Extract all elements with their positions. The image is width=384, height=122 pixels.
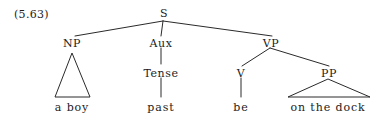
leaf-on-the-dock: on the dock xyxy=(290,101,365,114)
leaf-a-boy: a boy xyxy=(55,101,89,114)
branch-vp-pp xyxy=(270,48,329,66)
branch-s-aux xyxy=(161,21,163,36)
node-aux: Aux xyxy=(148,37,172,50)
leaf-past: past xyxy=(147,101,174,114)
syntax-tree-figure: (5.63) S NP Aux VP Tense V PP a boy past… xyxy=(0,0,384,122)
np-triangle xyxy=(55,53,90,97)
branch-vp-v xyxy=(242,48,270,66)
node-tense: Tense xyxy=(143,67,178,80)
branch-s-np xyxy=(75,21,163,36)
example-number: (5.63) xyxy=(14,8,49,21)
node-s: S xyxy=(160,7,168,20)
node-pp: PP xyxy=(321,67,337,80)
syntax-tree-diagram: (5.63) S NP Aux VP Tense V PP a boy past… xyxy=(0,0,384,122)
node-vp: VP xyxy=(262,37,280,50)
branch-s-vp xyxy=(163,21,272,36)
pp-triangle xyxy=(288,79,370,97)
node-v: V xyxy=(236,67,246,80)
node-np: NP xyxy=(63,37,81,50)
leaf-be: be xyxy=(233,101,248,114)
